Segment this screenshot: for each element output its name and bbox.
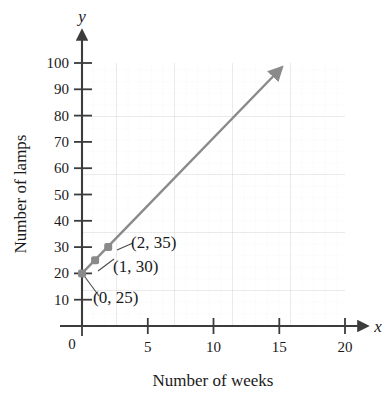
data-point-marker <box>78 269 86 277</box>
y-tick-label: 20 <box>54 265 69 281</box>
x-axis-tick-labels: 0 5 10 15 20 <box>68 336 352 355</box>
coordinate-plane-svg: 100 90 80 70 60 50 40 30 20 10 0 5 10 15… <box>0 0 387 394</box>
y-tick-label: 40 <box>54 213 69 229</box>
data-point-label-0-25: (0, 25) <box>93 288 138 307</box>
y-axis-variable-label: y <box>76 7 86 26</box>
x-tick-label: 15 <box>272 339 287 355</box>
y-axis-tick-labels: 100 90 80 70 60 50 40 30 20 10 <box>47 55 70 308</box>
y-tick-label: 90 <box>54 81 69 97</box>
y-tick-label: 50 <box>54 187 69 203</box>
y-tick-label: 80 <box>54 108 69 124</box>
x-tick-label: 5 <box>144 339 152 355</box>
data-point-marker <box>104 243 112 251</box>
x-tick-label-origin: 0 <box>68 336 76 352</box>
y-tick-label: 70 <box>54 134 69 150</box>
y-tick-label: 60 <box>54 160 69 176</box>
data-point-label-2-35: (2, 35) <box>131 233 176 252</box>
y-tick-label: 100 <box>47 55 70 71</box>
y-tick-label: 30 <box>54 239 69 255</box>
y-axis-title: Number of lamps <box>11 135 30 254</box>
data-point-marker <box>91 256 99 264</box>
x-axis-variable-label: x <box>373 317 382 336</box>
graph-figure: 100 90 80 70 60 50 40 30 20 10 0 5 10 15… <box>0 0 387 394</box>
data-point-label-1-30: (1, 30) <box>113 257 158 276</box>
x-axis-title: Number of weeks <box>153 371 274 390</box>
y-tick-label: 10 <box>54 292 69 308</box>
x-tick-label: 10 <box>206 339 221 355</box>
x-tick-label: 20 <box>338 339 353 355</box>
grid-area <box>82 63 345 326</box>
